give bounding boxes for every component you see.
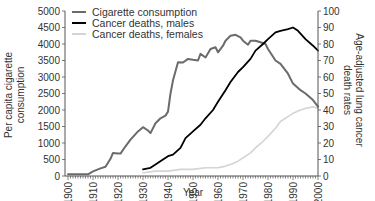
y-axis-title-left-line2: consumption [15, 67, 26, 124]
x-axis-title: Year [183, 187, 204, 198]
y-tick-label-right: 50 [323, 88, 335, 99]
y-tick-label-left: 3000 [38, 72, 61, 83]
y-tick-label-right: 100 [323, 6, 340, 17]
y-tick-label-right: 90 [323, 22, 335, 33]
x-tick-label: 1900 [63, 182, 74, 201]
y-tick-label-left: 1000 [38, 138, 61, 149]
y-tick-label-left: 2500 [38, 88, 61, 99]
lung-cancer-chart: 1900191019201930194019501960197019801990… [0, 0, 375, 201]
legend: Cigarette consumptionCancer deaths, male… [72, 6, 203, 40]
y-tick-label-left: 4500 [38, 22, 61, 33]
x-tick-label: 2000 [313, 182, 324, 201]
x-tick-label: 1980 [263, 182, 274, 201]
x-tick-label: 1970 [238, 182, 249, 201]
y-tick-label-right: 20 [323, 138, 335, 149]
x-tick-label: 1940 [163, 182, 174, 201]
y-tick-label-left: 1500 [38, 121, 61, 132]
y-tick-label-right: 0 [323, 171, 329, 182]
plot-lines [68, 28, 318, 175]
y-tick-label-left: 4000 [38, 39, 61, 50]
y-tick-label-right: 10 [323, 154, 335, 165]
y-tick-label-left: 3500 [38, 55, 61, 66]
y-tick-label-left: 2000 [38, 105, 61, 116]
y-tick-label-right: 60 [323, 72, 335, 83]
y-tick-label-right: 80 [323, 39, 335, 50]
x-tick-label: 1960 [213, 182, 224, 201]
y-tick-label-left: 500 [43, 154, 60, 165]
x-tick-label: 1920 [113, 182, 124, 201]
x-tick-label: 1910 [88, 182, 99, 201]
y-tick-label-right: 30 [323, 121, 335, 132]
y-axis-title-right-line2: death rates [342, 65, 353, 115]
y-tick-label-left: 5000 [38, 6, 61, 17]
y-tick-label-right: 40 [323, 105, 335, 116]
y-axis-title-left-line1: Per capita cigarette [3, 51, 14, 138]
y-tick-label-left: 0 [54, 171, 60, 182]
y-tick-label-right: 70 [323, 55, 335, 66]
legend-label: Cancer deaths, females [92, 28, 203, 40]
series-line-cancer-deaths-females [143, 107, 318, 173]
y-axis-title-right-line1: Age-adjusted lung cancer [354, 33, 365, 147]
series-line-cigarette-consumption [68, 35, 318, 175]
x-tick-label: 1990 [288, 182, 299, 201]
x-tick-label: 1930 [138, 182, 149, 201]
